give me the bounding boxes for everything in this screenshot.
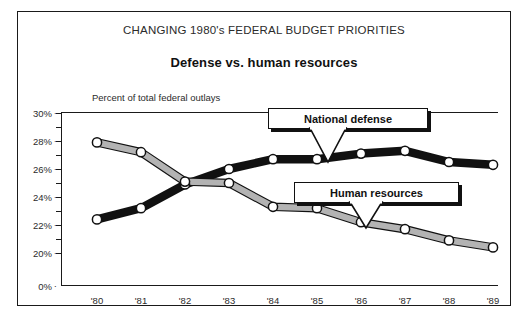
y-tick-label: 30% xyxy=(33,108,52,119)
x-tick-label: '87 xyxy=(399,295,411,306)
callout-pointer-human xyxy=(348,202,384,228)
data-point-marker xyxy=(268,202,277,211)
data-point-marker xyxy=(312,204,321,213)
data-point-marker xyxy=(400,146,409,155)
data-point-marker xyxy=(444,157,453,166)
x-tick-label: '82 xyxy=(179,295,191,306)
y-tick-label: 22% xyxy=(33,220,52,231)
data-point-marker xyxy=(92,138,101,147)
data-point-marker xyxy=(224,178,233,187)
x-tick-label: '81 xyxy=(135,295,147,306)
data-point-marker xyxy=(444,236,453,245)
data-point-marker xyxy=(180,177,189,186)
callout-national-defense: National defense xyxy=(268,108,428,129)
data-point-marker xyxy=(400,225,409,234)
callout-human-resources: Human resources xyxy=(294,182,459,203)
x-tick-label: '86 xyxy=(355,295,367,306)
y-axis-label: Percent of total federal outlays xyxy=(92,92,220,103)
data-point-marker xyxy=(136,148,145,157)
data-point-marker xyxy=(488,160,497,169)
x-tick-label: '84 xyxy=(267,295,279,306)
y-tick-label: 0% xyxy=(38,281,52,292)
chart-subtitle: Defense vs. human resources xyxy=(18,55,510,70)
chart-figure: CHANGING 1980's FEDERAL BUDGET PRIORITIE… xyxy=(17,11,511,306)
data-point-marker xyxy=(268,155,277,164)
data-point-marker xyxy=(488,243,497,252)
x-tick-label: '80 xyxy=(91,295,103,306)
x-tick-label: '83 xyxy=(223,295,235,306)
y-tick-label: 24% xyxy=(33,192,52,203)
chart-title: CHANGING 1980's FEDERAL BUDGET PRIORITIE… xyxy=(18,24,510,36)
data-point-marker xyxy=(224,164,233,173)
callout-pointer-defense xyxy=(308,128,348,162)
y-tick-label: 20% xyxy=(33,248,52,259)
y-tick-label: 26% xyxy=(33,164,52,175)
x-tick-label: '85 xyxy=(311,295,323,306)
x-tick-label: '88 xyxy=(443,295,455,306)
data-point-marker xyxy=(356,149,365,158)
data-point-marker xyxy=(136,204,145,213)
y-tick-label: 28% xyxy=(33,136,52,147)
x-tick-label: '89 xyxy=(487,295,499,306)
y-tick-dot: · xyxy=(54,281,57,291)
data-point-marker xyxy=(92,215,101,224)
